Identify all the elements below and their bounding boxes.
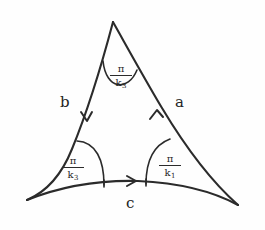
apex-angle-denominator-letter: k [115,77,121,88]
apex-angle-denominator-subscript: 3 [122,82,127,90]
edge-a-arrowhead [150,110,163,119]
bottom-right-angle-fraction-bar [159,165,181,166]
figure-canvas: b a c π k3 π k3 π k1 [0,0,265,230]
apex-angle-denominator: k3 [110,77,132,92]
apex-angle-numerator: π [110,64,132,74]
bottom-right-angle-denominator-subscript: 1 [171,172,176,180]
side-label-a: a [175,95,184,110]
bottom-right-angle-denominator: k1 [159,167,181,182]
bottom-left-angle-fraction-bar [62,167,84,168]
apex-angle-label: π k3 [110,64,132,92]
side-label-c: c [126,196,135,211]
bottom-right-angle-numerator: π [159,154,181,164]
bottom-right-angle-denominator-letter: k [164,167,170,178]
bottom-left-angle-label: π k3 [62,156,84,184]
bottom-left-angle-denominator-letter: k [67,169,73,180]
bottom-left-angle-denominator-subscript: 3 [74,174,79,182]
bottom-right-angle-label: π k1 [159,154,181,182]
bottom-left-angle-numerator: π [62,156,84,166]
bottom-left-angle-denominator: k3 [62,169,84,184]
apex-angle-fraction-bar [110,75,132,76]
side-label-b: b [60,95,70,110]
